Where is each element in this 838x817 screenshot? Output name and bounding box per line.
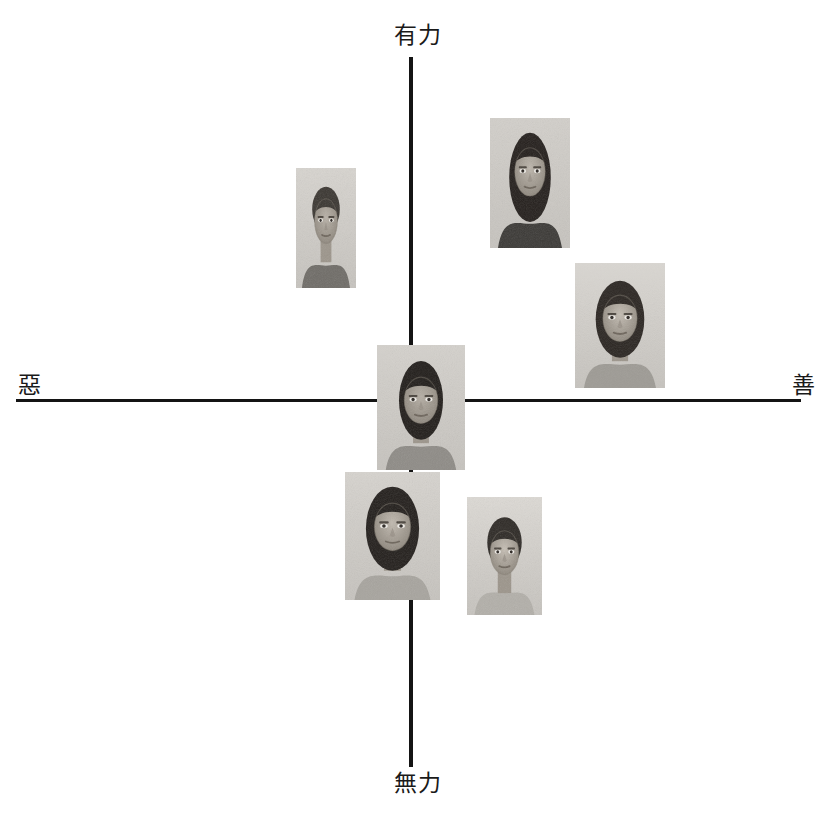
axis-label-right: 善 <box>792 374 816 397</box>
axis-label-bottom: 無力 <box>394 772 441 795</box>
woman-long-dark-hair-upper <box>490 118 570 248</box>
woman-shoulder-length-hair-right <box>575 263 665 388</box>
man-curly-hair-upper-left <box>296 168 356 288</box>
figure-canvas: 有力 無力 惡 善 <box>0 0 838 817</box>
person-center-origin <box>377 345 465 470</box>
axis-label-left: 惡 <box>18 374 42 397</box>
woman-curly-hair-lower <box>345 472 440 600</box>
axis-label-top: 有力 <box>394 24 441 47</box>
woman-short-hair-lower-right <box>467 497 542 615</box>
